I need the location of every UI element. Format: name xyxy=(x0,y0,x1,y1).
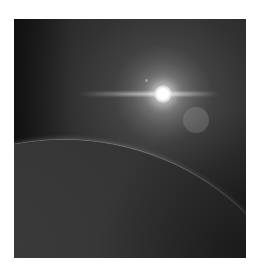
space-image xyxy=(14,19,246,258)
corner-shadow xyxy=(14,19,246,258)
